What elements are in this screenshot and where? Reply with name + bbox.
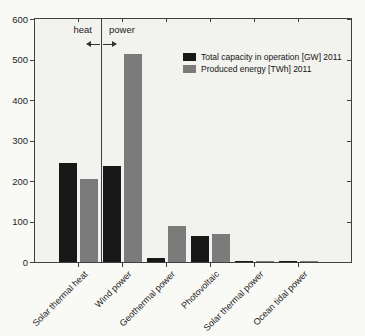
y-axis-tick-left: [30, 141, 34, 142]
y-axis-tick-left: [30, 60, 34, 61]
bar-group: Geothermal power: [147, 19, 186, 262]
bar-group: Photovoltaic: [191, 19, 230, 262]
y-axis-tick-left: [30, 222, 34, 223]
y-axis-tick-right: [347, 19, 351, 20]
x-tick-label: Wind power: [93, 269, 134, 310]
bar-group: Solar thermal heat: [59, 19, 98, 262]
capacity-bar: [147, 258, 165, 262]
heat-power-divider-line: [101, 19, 102, 262]
bar-group: Solar thermal power: [235, 19, 274, 262]
energy-bar: [168, 226, 186, 262]
plot-area: heat power Total capacity in operation […: [34, 18, 352, 263]
energy-bar: [300, 261, 318, 262]
y-axis-tick-left: [30, 262, 34, 263]
y-axis-tick-left: [30, 19, 34, 20]
x-tick-label: Solar thermal heat: [30, 269, 89, 328]
y-tick-label: 0: [0, 257, 28, 268]
y-axis-tick-right: [347, 141, 351, 142]
y-axis-tick-left: [30, 100, 34, 101]
y-axis-tick-right: [347, 262, 351, 263]
energy-bar: [256, 261, 274, 262]
capacity-bar: [191, 236, 209, 262]
energy-bar: [80, 179, 98, 262]
energy-bar: [212, 234, 230, 262]
figure: heat power Total capacity in operation […: [0, 0, 365, 336]
y-tick-label: 200: [0, 176, 28, 187]
y-tick-label: 500: [0, 54, 28, 65]
capacity-bar: [235, 261, 253, 262]
y-axis-tick-right: [347, 222, 351, 223]
capacity-bar: [103, 166, 121, 262]
y-tick-label: 600: [0, 14, 28, 25]
bar-group: Ocean tidal power: [279, 19, 318, 262]
bar-group: Wind power: [103, 19, 142, 262]
y-axis-tick-left: [30, 181, 34, 182]
capacity-bar: [279, 261, 297, 262]
y-tick-label: 400: [0, 95, 28, 106]
y-axis-tick-right: [347, 100, 351, 101]
capacity-bar: [59, 163, 77, 262]
y-axis-tick-right: [347, 181, 351, 182]
energy-bar: [124, 54, 142, 262]
y-axis-tick-right: [347, 60, 351, 61]
x-tick-label: Photovoltaic: [180, 269, 222, 311]
y-tick-label: 300: [0, 135, 28, 146]
y-tick-label: 100: [0, 216, 28, 227]
